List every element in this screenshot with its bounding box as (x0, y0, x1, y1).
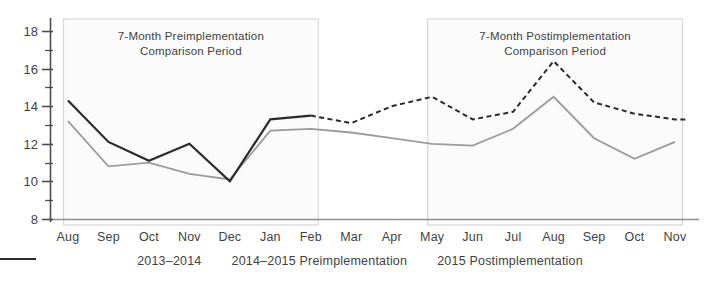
x-tick-label: Nov (664, 230, 687, 244)
x-tick-label: Sep (583, 230, 606, 244)
x-tick-label: Oct (625, 230, 645, 244)
x-tick-label: Sep (97, 230, 120, 244)
x-tick-label: Nov (178, 230, 201, 244)
annotation-label-line1: 7-Month Preimplementation (118, 30, 264, 42)
x-tick-label: Oct (139, 230, 159, 244)
x-tick-label: May (420, 230, 445, 244)
y-tick-label: 16 (24, 62, 38, 77)
y-tick-label: 14 (24, 99, 38, 114)
legend-label: 2014–2015 Preimplementation (232, 254, 408, 268)
chart-canvas: 7-Month PreimplementationComparison Peri… (0, 0, 720, 254)
legend-label: 2013–2014 (137, 254, 201, 268)
y-tick-label: 10 (24, 174, 38, 189)
x-tick-label: Feb (300, 230, 322, 244)
line-chart-figure: 7-Month PreimplementationComparison Peri… (0, 0, 720, 284)
legend-line-sample (0, 254, 36, 264)
y-tick-label: 12 (24, 137, 38, 152)
annotation-label-line2: Comparison Period (504, 45, 606, 57)
legend-item-2: 2014–2015 Preimplementation (232, 254, 408, 268)
x-tick-label: Jan (260, 230, 281, 244)
x-tick-label: Mar (340, 230, 362, 244)
y-tick-label: 18 (24, 24, 38, 39)
x-tick-label: Dec (218, 230, 241, 244)
annotation-label-line2: Comparison Period (140, 45, 242, 57)
legend-item-1: 2013–2014 (137, 254, 201, 268)
x-tick-label: Aug (57, 230, 80, 244)
x-tick-label: Jun (462, 230, 483, 244)
x-tick-label: Jul (505, 230, 522, 244)
x-tick-label: Apr (382, 230, 402, 244)
legend-item-3: 2015 Postimplementation (437, 254, 583, 268)
x-tick-label: Aug (542, 230, 565, 244)
annotation-label-line1: 7-Month Postimplementation (479, 30, 631, 42)
legend-label: 2015 Postimplementation (437, 254, 583, 268)
chart-legend: 2013–20142014–2015 Preimplementation2015… (0, 254, 720, 268)
y-tick-label: 8 (31, 212, 38, 227)
